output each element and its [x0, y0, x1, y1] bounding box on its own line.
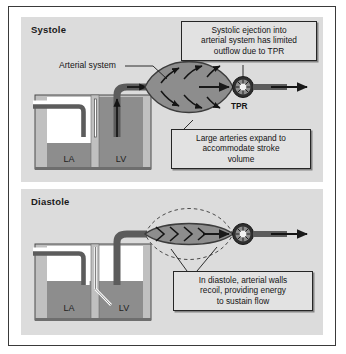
label-arterial-system: Arterial system	[59, 60, 116, 70]
chamber-label-lv-systole: LV	[116, 154, 126, 164]
chamber-label-la-diastole: LA	[63, 303, 74, 313]
diastole-illustration: LA LV	[21, 189, 323, 335]
callout-line: Large arteries expand to	[176, 133, 306, 143]
callout-diastolic-recoil: In diastole, arterial walls recoil, prov…	[173, 271, 313, 311]
callout-line: accommodate stroke	[176, 143, 306, 153]
panel-systole: Systole	[21, 17, 323, 182]
tpr-symbol-diastole	[233, 224, 254, 245]
label-tpr: TPR	[231, 101, 248, 111]
callout-line: volume	[176, 154, 306, 164]
callout-line: recoil, providing energy	[178, 285, 308, 295]
callout-line: arterial system has limited	[186, 35, 312, 45]
chamber-label-lv-diastole: LV	[119, 303, 129, 313]
callout-line: In diastole, arterial walls	[178, 275, 308, 285]
callout-systolic-ejection: Systolic ejection into arterial system h…	[181, 21, 317, 61]
callout-large-arteries: Large arteries expand to accommodate str…	[171, 129, 311, 169]
callout-line: Systolic ejection into	[186, 25, 312, 35]
chamber-label-la-systole: LA	[63, 154, 74, 164]
figure-frame: Systole	[8, 6, 336, 346]
callout-line: to sustain flow	[178, 296, 308, 306]
callout-line: outflow due to TPR	[186, 46, 312, 56]
tpr-symbol-systole	[233, 77, 254, 98]
panel-diastole: Diastole LA LV	[21, 189, 323, 335]
